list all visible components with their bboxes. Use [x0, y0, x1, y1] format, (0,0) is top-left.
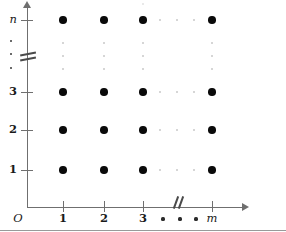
- lattice-point: [139, 88, 147, 96]
- x-axis-arrow-icon: [242, 203, 249, 211]
- x-axis-label-m: m: [203, 213, 221, 225]
- row-ellipsis-dot: [193, 129, 195, 131]
- y-axis-break-icon: [20, 50, 36, 62]
- lattice-point: [139, 16, 147, 24]
- lattice-point: [59, 88, 67, 96]
- x-axis-ellipsis-dot: [161, 217, 164, 220]
- column-ellipsis-dot: [103, 68, 105, 70]
- x-axis-ellipsis-dot: [178, 217, 181, 220]
- lattice-point: [100, 166, 108, 174]
- lattice-point: [59, 126, 67, 134]
- lattice-point: [100, 88, 108, 96]
- y-axis-label-3: 3: [1, 86, 17, 98]
- lattice-point: [208, 166, 216, 174]
- x-axis-label-1: 1: [54, 213, 72, 225]
- column-ellipsis-dot: [103, 55, 105, 57]
- lattice-point: [100, 16, 108, 24]
- y-axis-label-n: n: [1, 14, 17, 26]
- column-ellipsis-dot: [211, 42, 213, 44]
- row-ellipsis-dot: [176, 91, 178, 93]
- lattice-point: [59, 166, 67, 174]
- x-axis-ellipsis-dot: [194, 217, 197, 220]
- row-ellipsis-dot: [176, 169, 178, 171]
- y-axis-arrow-icon: [23, 1, 31, 8]
- row-ellipsis-dot: [193, 19, 195, 21]
- lattice-point: [59, 16, 67, 24]
- column-ellipsis-dot: [62, 68, 64, 70]
- lattice-point: [100, 126, 108, 134]
- y-axis-line: [27, 6, 28, 208]
- y-axis-ellipsis-dot: [10, 67, 13, 70]
- y-tick-2: [21, 130, 33, 131]
- y-axis-label-2: 2: [1, 124, 17, 136]
- row-ellipsis-dot: [193, 91, 195, 93]
- column-ellipsis-dot: [142, 68, 144, 70]
- lattice-point: [208, 88, 216, 96]
- x-axis-break-icon: [172, 196, 186, 209]
- lattice-point: [139, 166, 147, 174]
- row-ellipsis-dot: [176, 129, 178, 131]
- x-axis-label-3: 3: [134, 213, 152, 225]
- y-tick-1: [21, 170, 33, 171]
- y-axis-label-1: 1: [1, 164, 17, 176]
- x-axis-label-2: 2: [95, 213, 113, 225]
- row-ellipsis-dot: [159, 19, 161, 21]
- y-axis-ellipsis-dot: [10, 53, 13, 56]
- scan-speck: [142, 3, 144, 5]
- row-ellipsis-dot: [193, 169, 195, 171]
- lattice-point: [208, 16, 216, 24]
- column-ellipsis-dot: [142, 55, 144, 57]
- row-ellipsis-dot: [176, 19, 178, 21]
- column-ellipsis-dot: [211, 55, 213, 57]
- row-ellipsis-dot: [159, 91, 161, 93]
- lattice-grid-figure: n 3 2 1 O 1 2 3 m: [0, 0, 286, 232]
- column-ellipsis-dot: [142, 42, 144, 44]
- column-ellipsis-dot: [211, 68, 213, 70]
- page-bottom-edge: [0, 230, 286, 231]
- y-tick-n: [21, 20, 33, 21]
- column-ellipsis-dot: [103, 42, 105, 44]
- lattice-point: [139, 126, 147, 134]
- row-ellipsis-dot: [159, 129, 161, 131]
- column-ellipsis-dot: [62, 42, 64, 44]
- y-axis-ellipsis-dot: [10, 40, 13, 43]
- row-ellipsis-dot: [159, 169, 161, 171]
- column-ellipsis-dot: [62, 55, 64, 57]
- lattice-point: [208, 126, 216, 134]
- y-tick-3: [21, 92, 33, 93]
- origin-label: O: [9, 213, 27, 225]
